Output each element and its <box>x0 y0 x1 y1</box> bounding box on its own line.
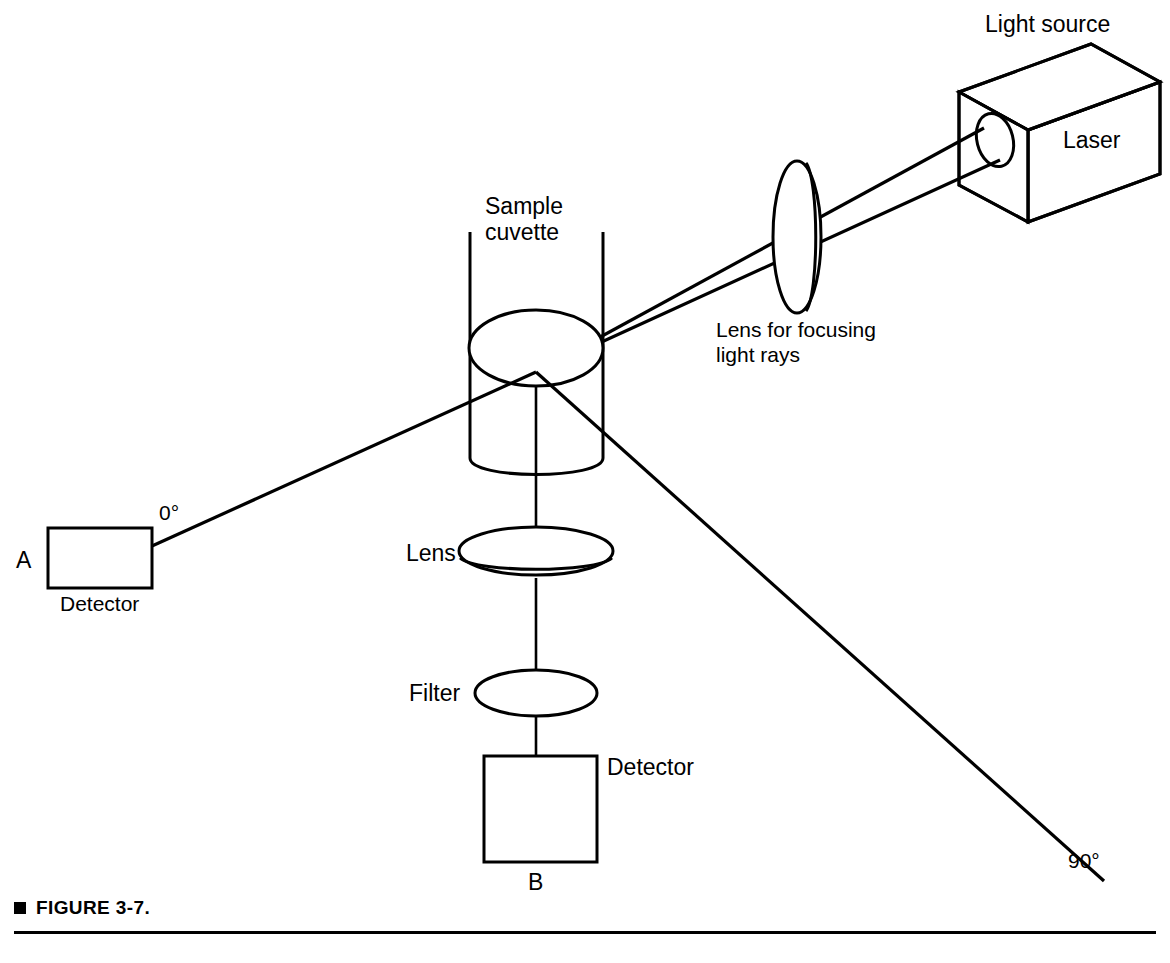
optical-diagram: Light source Laser Lens for focusing lig… <box>0 0 1170 963</box>
detector-a-letter: A <box>16 547 32 573</box>
angle-90-label: 90° <box>1068 849 1100 872</box>
figure-caption-block: FIGURE 3-7. <box>0 895 1170 934</box>
detector-b-letter: B <box>528 869 543 895</box>
sample-cuvette-label-line2: cuvette <box>485 219 559 245</box>
light-source-label: Light source <box>985 11 1110 37</box>
focusing-lens-label: Lens for focusing <box>716 318 876 341</box>
detector-a <box>48 528 152 588</box>
caption-row: FIGURE 3-7. <box>0 895 1170 921</box>
detector-b <box>484 756 597 862</box>
transmitted-beam-0deg <box>152 372 536 546</box>
filled-square-bullet-icon <box>14 902 26 914</box>
detector-a-label: Detector <box>60 592 139 615</box>
figure-container: Light source Laser Lens for focusing lig… <box>0 0 1170 963</box>
laser-label: Laser <box>1063 127 1121 153</box>
scattered-beam-90deg <box>536 372 1104 881</box>
figure-caption-text: FIGURE 3-7. <box>36 897 150 919</box>
angle-0-label: 0° <box>159 501 179 524</box>
lens-label: Lens <box>406 540 456 566</box>
optical-filter <box>475 670 597 716</box>
filter-label: Filter <box>409 680 460 706</box>
focusing-lens <box>773 161 821 313</box>
focusing-lens-label-line2: light rays <box>716 343 800 366</box>
caption-divider <box>14 931 1156 934</box>
collection-lens <box>459 527 613 575</box>
detector-b-label: Detector <box>607 754 694 780</box>
sample-cuvette-label: Sample <box>485 193 563 219</box>
